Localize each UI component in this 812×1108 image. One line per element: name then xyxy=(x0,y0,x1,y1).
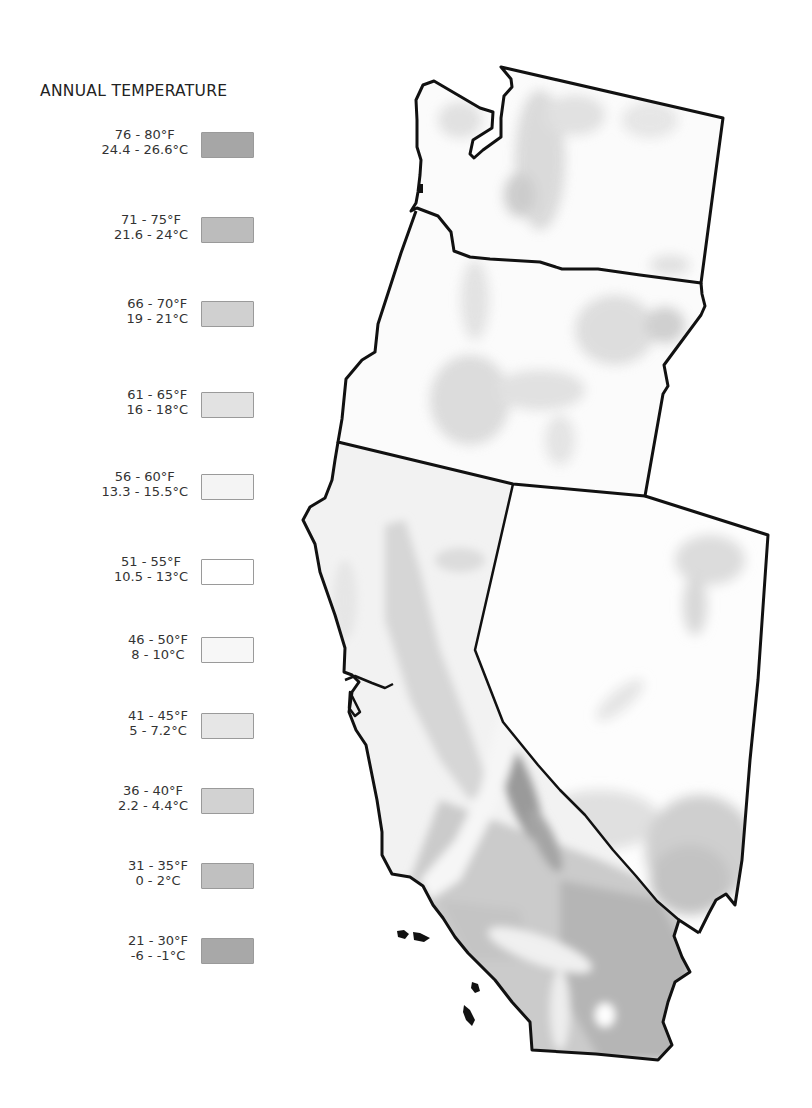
grays-harbor-mark xyxy=(418,184,423,193)
temperature-map xyxy=(0,0,812,1108)
region-washington xyxy=(411,67,723,283)
